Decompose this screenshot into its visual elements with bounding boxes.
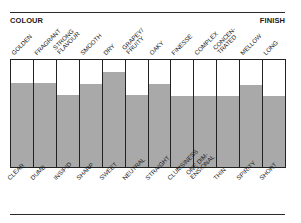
- top-category-label: GOLDEN: [11, 33, 34, 56]
- bar-column: [102, 60, 125, 167]
- label-line: OAKY: [148, 39, 165, 56]
- top-category-label: FINESSE: [171, 33, 194, 56]
- bar-column: [148, 60, 171, 167]
- bar-column: [216, 60, 239, 167]
- top-category-label: MELLOW: [240, 32, 264, 56]
- bar-column: [79, 60, 102, 167]
- top-category-label: OAKY: [148, 39, 165, 56]
- bottom-category-label: THIN: [213, 166, 228, 181]
- bar-fill: [57, 95, 79, 167]
- label-line: LONG: [263, 39, 280, 56]
- bar-fill: [34, 83, 56, 167]
- bar-column: [33, 60, 56, 167]
- bar-chart: [10, 59, 286, 168]
- bar-column: [125, 60, 148, 167]
- label-line: GOLDEN: [11, 33, 34, 56]
- top-category-label: GRAPEY/FRUITY: [121, 27, 150, 56]
- bar-fill: [11, 83, 33, 167]
- colour-label: COLOUR: [10, 16, 43, 25]
- bar-fill: [126, 95, 148, 167]
- bar-column: [56, 60, 79, 167]
- label-line: THIN: [213, 166, 228, 181]
- bar-fill: [80, 84, 102, 167]
- bar-column: [11, 60, 33, 167]
- top-category-label: DRY: [102, 42, 116, 56]
- bar-column: [239, 60, 262, 167]
- top-category-label: CONCEN-TRATED: [212, 27, 241, 56]
- bar-fill: [103, 72, 125, 167]
- bottom-rule: [10, 214, 285, 215]
- label-line: MELLOW: [240, 32, 264, 56]
- top-category-label: SMOOTH: [79, 32, 103, 56]
- top-rule: [10, 12, 285, 13]
- bar-fill: [240, 85, 262, 167]
- bar-fill: [217, 96, 239, 167]
- bar-column: [262, 60, 285, 167]
- label-line: DRY: [102, 42, 116, 56]
- label-line: SMOOTH: [79, 32, 103, 56]
- bar-fill: [263, 96, 285, 167]
- finish-label: FINISH: [260, 16, 285, 25]
- top-category-label: LONG: [263, 39, 280, 56]
- label-line: FINESSE: [171, 33, 194, 56]
